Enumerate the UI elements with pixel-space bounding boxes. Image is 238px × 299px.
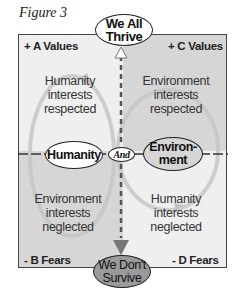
up-arrowhead-icon [115, 47, 127, 58]
environment-pole-oval: Environ-ment [143, 137, 203, 171]
corner-b-fears: - B Fears [24, 254, 71, 266]
corner-d-fears: - D Fears [172, 254, 219, 266]
quadrant-text-bottom-right: Humanity interests neglected [136, 192, 216, 234]
and-connector-oval: And [108, 147, 135, 162]
quadrant-text-top-left: Humanity interests respected [30, 74, 110, 116]
we-dont-survive-oval: We Don'tSurvive [93, 255, 151, 288]
humanity-pole-oval: Humanity [45, 141, 103, 169]
we-all-thrive-oval: We AllThrive [95, 14, 153, 46]
corner-c-values: + C Values [168, 40, 223, 52]
down-arrowhead-icon [113, 240, 129, 255]
corner-a-values: + A Values [24, 40, 78, 52]
quadrant-text-bottom-left: Environment interests neglected [22, 192, 114, 234]
quadrant-text-top-right: Environment interests respected [130, 74, 222, 116]
